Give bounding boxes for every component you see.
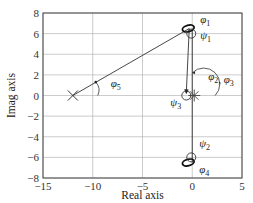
angle-label: φ5: [111, 77, 121, 92]
angle-label: ψ1: [200, 29, 211, 44]
y-axis-label: Imag axis: [5, 72, 18, 118]
pole-ellipse-marker: [182, 24, 195, 33]
y-tick-label: 4: [34, 48, 40, 60]
ray-line: [73, 28, 189, 95]
root-locus-chart: −15−10−505 86420−2−4−6−8 φ1ψ1φ2, φ3ψ3ψ2φ…: [0, 0, 253, 203]
pole-ellipse-marker: [182, 158, 195, 167]
y-tick-label: −6: [27, 151, 39, 163]
y-tick-labels: 86420−2−4−6−8: [27, 7, 39, 184]
x-axis-label: Real axis: [121, 189, 164, 201]
x-tick-label: 5: [239, 180, 245, 192]
pole-asterisk-marker: [188, 90, 200, 102]
angle-arc-phi5: [96, 82, 99, 95]
y-tick-label: 6: [34, 28, 40, 40]
y-tick-label: −2: [27, 110, 39, 122]
y-tick-label: −8: [27, 172, 39, 184]
x-tick-label: −10: [84, 180, 102, 192]
angle-label: φ4: [199, 163, 209, 178]
y-tick-label: 0: [34, 90, 40, 102]
y-tick-label: 2: [34, 69, 40, 81]
angle-label: ψ2: [199, 137, 210, 152]
y-tick-label: −4: [27, 131, 39, 143]
angle-label: φ1: [200, 13, 210, 28]
ray-line: [186, 28, 189, 93]
arrow-dot: [94, 81, 97, 84]
angle-label: ψ3: [170, 96, 181, 111]
y-tick-label: 8: [34, 7, 40, 19]
angle-label: φ2, φ3: [208, 70, 234, 88]
x-tick-label: 0: [190, 180, 196, 192]
